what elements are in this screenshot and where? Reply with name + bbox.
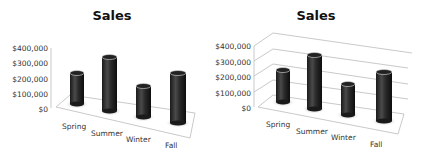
x-category-label: Summer [296,127,329,136]
bar-fall [170,73,186,123]
bar-winter [341,84,355,115]
chart-without-gridlines: Sales $400,000 $300,000 $200,000 $100,00… [0,0,212,160]
x-category-label: Winter [126,135,152,144]
y-tick-label: $200,000 [215,73,251,82]
plot-area: $400,000 $300,000 $200,000 $100,000 $0 S… [212,0,424,160]
bar-summer [307,55,322,109]
x-category-label: Fall [165,141,177,150]
x-category-label: Winter [331,133,357,142]
bar-spring [70,73,84,104]
bar-summer [102,57,117,111]
y-tick-label: $300,000 [215,58,251,67]
bar-spring [276,70,290,102]
plot-area: $400,000 $300,000 $200,000 $100,000 $0 S… [0,0,212,160]
x-category-label: Summer [91,129,124,138]
bar-winter [136,86,151,117]
y-tick-label: $0 [38,105,48,114]
x-category-label: Fall [370,140,382,149]
x-category-label: Spring [62,122,86,131]
y-tick-label: $400,000 [12,44,48,53]
y-tick-label: $100,000 [12,90,48,99]
chart-with-gridlines: Sales $400,000 $300,00 [212,0,424,160]
bar-fall [376,72,392,121]
y-tick-label: $0 [241,104,251,113]
y-tick-label: $100,000 [215,89,251,98]
y-tick-label: $300,000 [12,59,48,68]
x-category-label: Spring [266,120,290,129]
y-tick-label: $200,000 [12,75,48,84]
y-tick-label: $400,000 [215,42,251,51]
